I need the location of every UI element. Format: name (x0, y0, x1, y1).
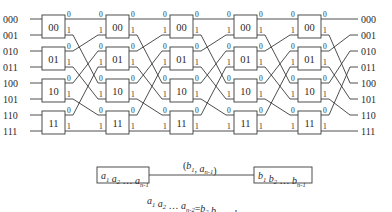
port-label: 1 (259, 26, 263, 35)
edge-example: a1 a2 … an-1 b1 b2 … bn-1 (b1, an-1) a1 … (97, 160, 312, 212)
port-label: 0 (259, 74, 263, 83)
port-label: 1 (67, 90, 71, 99)
port-label: 0 (131, 10, 135, 19)
output-label: 011 (361, 62, 376, 73)
input-label: 100 (3, 78, 18, 89)
equation: a1 a2 … an-2=b2 b3 … bn-1 (147, 195, 248, 212)
port-label: 0 (291, 106, 295, 115)
shuffle-network-diagram: 0010011100100111001001110010011100100111… (0, 0, 392, 212)
output-label: 111 (361, 126, 375, 137)
switch-label: 01 (176, 54, 187, 65)
port-label: 0 (99, 10, 103, 19)
port-label: 1 (131, 90, 135, 99)
port-label: 0 (67, 74, 71, 83)
port-label: 1 (99, 122, 103, 131)
port-label: 1 (323, 26, 327, 35)
port-label: 1 (291, 122, 295, 131)
port-label: 0 (323, 10, 327, 19)
input-label: 000 (3, 14, 18, 25)
switch-label: 01 (112, 54, 123, 65)
port-label: 1 (259, 122, 263, 131)
port-label: 1 (99, 90, 103, 99)
port-label: 1 (227, 122, 231, 131)
port-label: 0 (227, 42, 231, 51)
port-label: 0 (323, 42, 327, 51)
port-label: 0 (323, 106, 327, 115)
port-label: 1 (323, 122, 327, 131)
port-label: 0 (163, 74, 167, 83)
port-label: 0 (99, 42, 103, 51)
port-label: 1 (99, 26, 103, 35)
port-label: 0 (323, 74, 327, 83)
port-label: 0 (227, 74, 231, 83)
output-label: 110 (361, 110, 376, 121)
port-label: 0 (67, 42, 71, 51)
output-label: 010 (361, 46, 376, 57)
port-label: 0 (291, 74, 295, 83)
port-label: 0 (131, 42, 135, 51)
port-label: 1 (131, 58, 135, 67)
switch-boxes: 0001101100011011000110110001101100011011 (42, 15, 321, 134)
switch-label: 11 (48, 118, 58, 129)
port-label: 1 (195, 26, 199, 35)
port-label: 0 (163, 10, 167, 19)
port-label: 0 (99, 74, 103, 83)
switch-label: 10 (48, 86, 59, 97)
port-label: 1 (195, 58, 199, 67)
port-label: 0 (259, 106, 263, 115)
port-label: 1 (67, 122, 71, 131)
port-label: 1 (163, 90, 167, 99)
output-label: 000 (361, 14, 376, 25)
switch-label: 01 (240, 54, 251, 65)
port-label: 0 (291, 10, 295, 19)
switch-label: 10 (112, 86, 123, 97)
port-label: 0 (195, 74, 199, 83)
port-label: 1 (227, 90, 231, 99)
input-label: 111 (3, 126, 17, 137)
port-label: 1 (323, 58, 327, 67)
switch-label: 00 (304, 22, 315, 33)
output-label: 101 (361, 94, 376, 105)
port-label: 0 (195, 10, 199, 19)
input-label: 001 (3, 30, 18, 41)
port-label: 0 (195, 106, 199, 115)
port-label: 0 (99, 106, 103, 115)
switch-label: 10 (240, 86, 251, 97)
port-label: 1 (227, 26, 231, 35)
switch-label: 00 (240, 22, 251, 33)
switch-label: 11 (304, 118, 314, 129)
port-label: 0 (227, 106, 231, 115)
port-label: 1 (227, 58, 231, 67)
port-label: 1 (291, 58, 295, 67)
switch-label: 00 (176, 22, 187, 33)
port-label: 0 (67, 106, 71, 115)
input-label: 101 (3, 94, 18, 105)
port-label: 0 (291, 42, 295, 51)
switch-label: 10 (304, 86, 315, 97)
switch-label: 11 (240, 118, 250, 129)
input-label: 010 (3, 46, 18, 57)
port-label: 1 (195, 122, 199, 131)
input-label: 011 (3, 62, 18, 73)
switch-label: 01 (48, 54, 59, 65)
port-label: 1 (291, 90, 295, 99)
port-label: 0 (163, 42, 167, 51)
switch-label: 00 (112, 22, 123, 33)
port-label: 1 (99, 58, 103, 67)
port-label: 1 (259, 90, 263, 99)
edge-label: (b1, an-1) (183, 160, 217, 177)
port-label: 1 (163, 122, 167, 131)
port-label: 0 (259, 42, 263, 51)
port-label: 1 (131, 122, 135, 131)
port-label: 1 (163, 58, 167, 67)
port-label: 1 (131, 26, 135, 35)
port-label: 0 (163, 106, 167, 115)
switch-label: 01 (304, 54, 315, 65)
port-label: 0 (259, 10, 263, 19)
port-label: 0 (131, 74, 135, 83)
port-label: 1 (163, 26, 167, 35)
port-label: 0 (195, 42, 199, 51)
switch-label: 11 (112, 118, 122, 129)
port-label: 0 (67, 10, 71, 19)
port-label: 1 (259, 58, 263, 67)
